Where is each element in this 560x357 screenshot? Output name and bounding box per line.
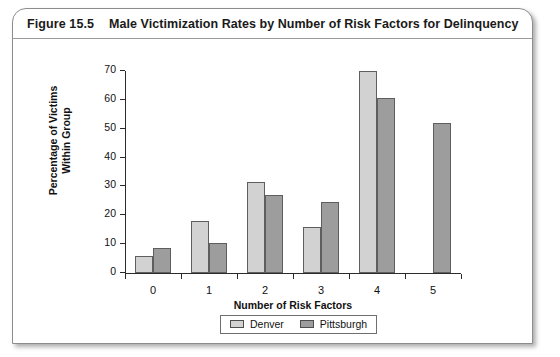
figure-card: Figure 15.5 Male Victimization Rates by … — [12, 8, 533, 344]
bar-denver-4 — [359, 71, 377, 273]
y-axis-tick-label: 20 — [104, 207, 116, 219]
x-axis-tick-label: 3 — [301, 284, 341, 296]
legend-item-pittsburgh: Pittsburgh — [300, 318, 367, 330]
y-axis-tick: 20 — [120, 214, 125, 215]
bar-denver-0 — [135, 256, 153, 273]
chart-area: Percentage of Victims Within Group 01020… — [13, 40, 532, 344]
x-axis-tick-label: 0 — [133, 284, 173, 296]
bar-pittsburgh-2 — [265, 195, 283, 273]
x-axis-label: Number of Risk Factors — [125, 299, 461, 311]
y-axis-tick: 40 — [120, 157, 125, 158]
x-axis-tick — [237, 274, 238, 279]
legend-swatch-pittsburgh — [300, 320, 314, 328]
chart-legend: Denver Pittsburgh — [220, 315, 377, 334]
x-axis-tick — [461, 274, 462, 279]
bar-denver-1 — [191, 221, 209, 273]
y-axis-tick: 30 — [120, 185, 125, 186]
y-axis-tick: 60 — [120, 99, 125, 100]
y-axis-line — [125, 71, 126, 274]
bar-pittsburgh-0 — [153, 248, 171, 273]
bar-pittsburgh-5 — [433, 123, 451, 273]
x-axis-tick-label: 2 — [245, 284, 285, 296]
x-axis-tick-label: 4 — [357, 284, 397, 296]
y-axis-tick: 0 — [120, 272, 125, 273]
y-axis-label: Percentage of Victims Within Group — [47, 71, 72, 211]
legend-swatch-denver — [230, 320, 244, 328]
y-axis-tick-label: 30 — [104, 178, 116, 190]
figure-title: Male Victimization Rates by Number of Ri… — [109, 17, 518, 31]
y-axis-tick-label: 40 — [104, 150, 116, 162]
x-axis-tick-label: 5 — [413, 284, 453, 296]
figure-title-bar: Figure 15.5 Male Victimization Rates by … — [13, 9, 532, 39]
x-axis-tick — [125, 274, 126, 279]
x-axis-tick — [405, 274, 406, 279]
legend-item-denver: Denver — [230, 318, 284, 330]
bar-pittsburgh-4 — [377, 98, 395, 273]
y-axis-tick: 70 — [120, 70, 125, 71]
bar-pittsburgh-3 — [321, 202, 339, 273]
bar-pittsburgh-1 — [209, 243, 227, 273]
x-axis-tick — [293, 274, 294, 279]
y-axis-tick: 10 — [120, 243, 125, 244]
y-axis-tick: 50 — [120, 128, 125, 129]
x-axis-tick — [349, 274, 350, 279]
legend-label-pittsburgh: Pittsburgh — [320, 318, 367, 330]
legend-label-denver: Denver — [250, 318, 284, 330]
y-axis-tick-label: 70 — [104, 63, 116, 75]
y-axis-label-line2: Within Group — [59, 71, 72, 211]
x-axis-tick — [181, 274, 182, 279]
x-axis-tick-label: 1 — [189, 284, 229, 296]
bar-denver-2 — [247, 182, 265, 273]
y-axis-tick-label: 50 — [104, 121, 116, 133]
y-axis-label-line1: Percentage of Victims — [47, 71, 60, 211]
y-axis-tick-label: 60 — [104, 92, 116, 104]
bar-denver-3 — [303, 227, 321, 273]
y-axis-tick-label: 0 — [110, 265, 116, 277]
figure-number: Figure 15.5 — [27, 17, 94, 31]
plot-region: 010203040506070 012345 — [125, 65, 461, 274]
y-axis-tick-label: 10 — [104, 236, 116, 248]
